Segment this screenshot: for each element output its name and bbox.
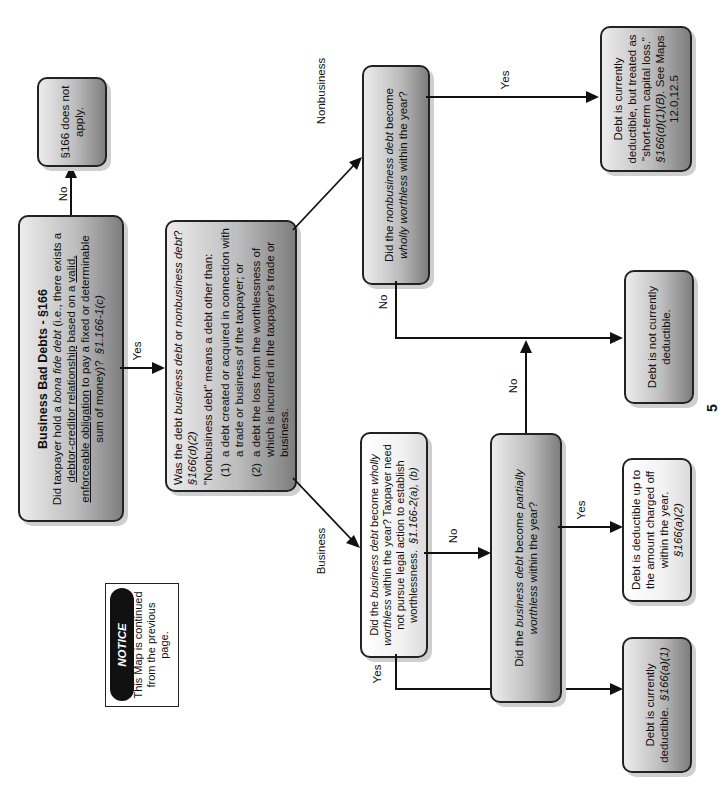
notice-text: This Map is continued from the previous …: [131, 590, 170, 700]
arrow-head-icon: [520, 340, 532, 353]
edge-label-nbw-no: No: [377, 295, 389, 310]
edge-bw-yes: [395, 654, 397, 690]
edge-nbw-no-h: [395, 337, 613, 339]
edge-label-partial-no: No: [507, 379, 519, 394]
edge-label-bw-no: No: [447, 529, 459, 544]
edge-label-nbw-yes: Yes: [499, 71, 511, 90]
edge-label-nonbusiness: Nonbusiness: [315, 58, 327, 124]
edge-bw-no: [424, 552, 480, 554]
arrow-head-icon: [610, 332, 623, 344]
decision-nonbusiness-wholly-worthless: Did the nonbusiness debt become wholly w…: [362, 65, 430, 285]
page-number-fragment: 5: [704, 404, 720, 412]
edge-label-business: Business: [315, 528, 327, 575]
outcome-not-currently-deductible: Debt is not currently deductible.: [624, 270, 694, 404]
arrow-head-icon: [586, 91, 599, 103]
outcome-short-term-capital-loss: Debt is currently deductible, but treate…: [600, 26, 692, 172]
edge-nbw-no: [395, 281, 397, 338]
edge-nbw-yes: [426, 96, 588, 98]
decision-business-wholly-worthless: Did the business debt become wholly wort…: [360, 432, 428, 658]
outcome-currently-deductible: Debt is currently deductible. §166(a)(1): [622, 637, 692, 773]
edge-partial-no: [525, 352, 527, 433]
business-wholly-citation: §1.166-2(a), (b): [407, 467, 419, 543]
edge-label-bw-yes: Yes: [371, 665, 383, 684]
edge-label-partial-yes: Yes: [575, 501, 587, 520]
notice-label-pill: NOTICE: [110, 588, 134, 701]
edge-partial-yes: [558, 526, 613, 528]
outcome-deductible-up-to-charged-off: Debt is deductible up to the amount char…: [622, 458, 692, 602]
notice-box: NOTICE This Map is continued from the pr…: [105, 583, 179, 707]
decision-business-partially-worthless: Did the business debt become partially w…: [490, 433, 562, 703]
